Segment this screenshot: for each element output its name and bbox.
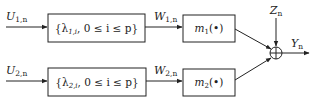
noise-label: Zn xyxy=(269,4,283,18)
summer-in-arrow-2 xyxy=(235,58,271,80)
intermediate-label-1: W1,n xyxy=(154,10,177,24)
branch-2: U2,n {λ2,i, 0 ≤ i ≤ p} W2,n m2(•) xyxy=(6,58,271,96)
input-label-1: U1,n xyxy=(6,10,27,24)
nonlinearity-label-1: m1(•) xyxy=(195,22,224,36)
summing-junction: Zn Yn xyxy=(269,4,309,59)
nonlinearity-label-2: m2(•) xyxy=(195,76,224,90)
branch-1: U1,n {λ1,i, 0 ≤ i ≤ p} W1,n m1(•) xyxy=(6,10,271,49)
block-diagram: U1,n {λ1,i, 0 ≤ i ≤ p} W1,n m1(•) U2,n {… xyxy=(0,0,312,102)
intermediate-label-2: W2,n xyxy=(154,64,177,78)
filter-label-2: {λ2,i, 0 ≤ i ≤ p} xyxy=(55,76,138,90)
summer-in-arrow-1 xyxy=(235,29,271,49)
output-label: Yn xyxy=(291,37,303,51)
filter-label-1: {λ1,i, 0 ≤ i ≤ p} xyxy=(55,22,138,36)
input-label-2: U2,n xyxy=(6,64,27,78)
